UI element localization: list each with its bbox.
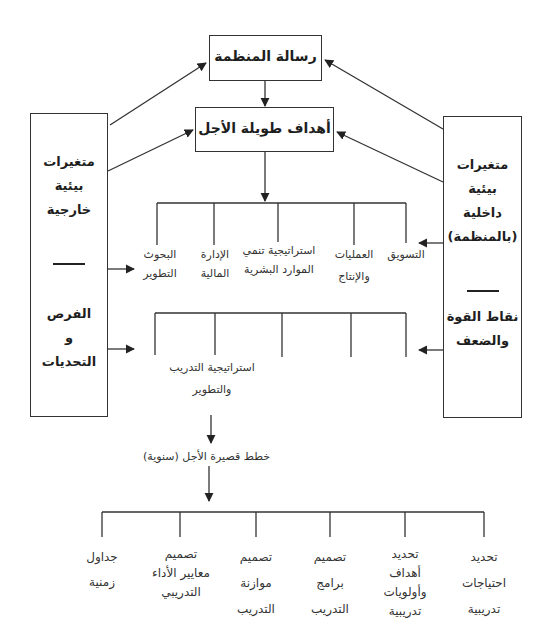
long-term-goals-label: أهداف طويلة الأجل [196, 120, 333, 136]
step-timetables: جداول زمنية [77, 548, 127, 592]
strategy-finance: الإدارة المالية [190, 245, 240, 283]
opportunities-threats-text: الفرص و التحديات [31, 302, 107, 374]
step-training-programs: تصميم برامج التدريب [303, 548, 357, 619]
internal-environment-box: متغيرات بيئية داخلية (بالمنظمة) نقاط الق… [443, 116, 522, 418]
mission-label: رسالة المنظمة [210, 48, 321, 64]
strategy-operations: العمليات والإنتاج [320, 245, 388, 286]
external-variables-text: متغيرات بيئية خارجية [31, 150, 107, 222]
mission-box: رسالة المنظمة [209, 35, 322, 81]
external-environment-box: متغيرات بيئية خارجية الفرص و التحديات [30, 113, 108, 417]
internal-variables-text: متغيرات بيئية داخلية (بالمنظمة) [444, 153, 521, 249]
strengths-weaknesses-text: نقاط القوة والضعف [444, 305, 521, 353]
training-strategy: استراتيجية التدريب والتطوير [162, 358, 262, 399]
strategy-hr-development: استراتيجية تنمي الموارد البشرية [234, 241, 324, 279]
step-training-needs: تحديد احتياجات تدريبية [457, 548, 511, 619]
divider [53, 263, 85, 265]
step-training-objectives: تحديد أهداف وأولويات تدريبية [376, 545, 434, 621]
long-term-goals-box: أهداف طويلة الأجل [195, 107, 334, 152]
short-term-plans: خطط قصيرة الأجل (سنوية) [150, 447, 270, 466]
step-training-budget: تصميم موازنة التدريب [229, 548, 283, 619]
step-performance-criteria: تصميم معايير الأداء التدريبي [145, 545, 217, 602]
divider [467, 290, 499, 292]
strategy-research-development: البحوث التطوير [135, 245, 185, 283]
